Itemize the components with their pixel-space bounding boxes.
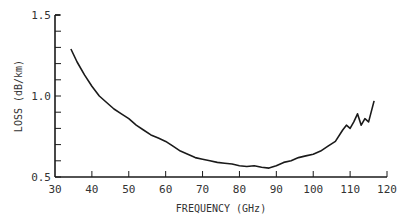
x-tick-label: 100: [303, 183, 323, 196]
x-tick-label: 70: [196, 183, 209, 196]
loss-vs-frequency-chart: 0.51.01.5 30405060708090100110120 LOSS (…: [0, 0, 407, 220]
y-tick-label: 1.0: [31, 90, 51, 103]
x-tick-label: 90: [270, 183, 283, 196]
y-tick-label: 1.5: [31, 9, 51, 22]
x-tick-label: 60: [159, 183, 172, 196]
x-tick-label: 40: [85, 183, 98, 196]
x-tick-label: 80: [233, 183, 246, 196]
loss-curve: [71, 49, 374, 168]
x-axis-label: FREQUENCY (GHz): [176, 203, 266, 214]
y-axis: 0.51.01.5: [31, 9, 61, 184]
x-tick-label: 50: [122, 183, 135, 196]
x-tick-label: 120: [377, 183, 397, 196]
x-axis: 30405060708090100110120: [48, 171, 397, 196]
y-axis-label: LOSS (dB/km): [13, 60, 24, 132]
x-tick-label: 110: [340, 183, 360, 196]
x-tick-label: 30: [48, 183, 61, 196]
